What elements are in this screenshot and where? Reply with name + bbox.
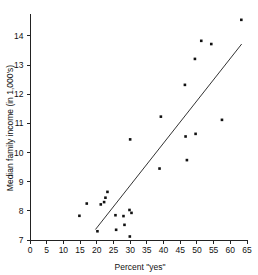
- x-axis-ticks: 05101520253035404550556065: [28, 240, 252, 255]
- data-point: [103, 201, 106, 204]
- x-tick-label: 0: [28, 245, 33, 255]
- y-axis-ticks: 7891011121314: [14, 31, 30, 245]
- x-tick-label: 20: [92, 245, 102, 255]
- data-point: [128, 209, 131, 212]
- data-point: [114, 214, 117, 217]
- data-point: [221, 119, 224, 122]
- y-axis-title: Median family income (in 1,000's): [5, 65, 15, 192]
- y-tick-label: 8: [19, 206, 24, 216]
- data-point: [184, 135, 187, 138]
- data-point: [194, 133, 197, 136]
- y-axis: 7891011121314: [14, 14, 30, 245]
- x-tick-label: 5: [44, 245, 49, 255]
- data-point: [96, 230, 99, 233]
- data-point: [85, 202, 88, 205]
- data-point: [122, 215, 125, 218]
- x-tick-label: 35: [142, 245, 152, 255]
- data-point: [129, 138, 132, 141]
- x-tick-label: 65: [242, 245, 252, 255]
- data-point: [210, 43, 213, 46]
- y-tick-label: 11: [15, 118, 24, 128]
- y-tick-label: 14: [14, 31, 24, 41]
- x-tick-label: 30: [125, 245, 135, 255]
- x-tick-label: 10: [59, 245, 69, 255]
- y-tick-label: 9: [19, 177, 24, 187]
- y-tick-label: 13: [14, 60, 24, 70]
- y-tick-label: 10: [14, 148, 24, 158]
- data-point: [106, 191, 109, 194]
- plot-canvas: 7891011121314 05101520253035404550556065…: [0, 0, 258, 275]
- data-point: [123, 224, 126, 227]
- x-tick-label: 45: [175, 245, 185, 255]
- data-point: [240, 19, 243, 22]
- data-point-group: [78, 19, 243, 238]
- x-tick-label: 25: [109, 245, 119, 255]
- x-tick-label: 40: [159, 245, 169, 255]
- x-tick-label: 50: [192, 245, 202, 255]
- data-point: [158, 167, 161, 170]
- x-axis-title: Percent "yes": [115, 262, 166, 272]
- data-point: [115, 228, 118, 231]
- data-point: [186, 159, 189, 162]
- x-tick-label: 55: [209, 245, 219, 255]
- y-tick-label: 12: [14, 89, 24, 99]
- data-point: [78, 214, 81, 217]
- x-axis: 05101520253035404550556065: [28, 240, 252, 255]
- regression-line: [95, 44, 241, 229]
- data-point: [104, 196, 107, 199]
- x-tick-label: 15: [75, 245, 85, 255]
- data-point: [99, 203, 102, 206]
- data-point: [160, 115, 163, 118]
- data-point: [200, 40, 203, 43]
- y-tick-label: 7: [19, 235, 24, 245]
- data-point: [129, 235, 132, 238]
- scatter-plot-figure: 7891011121314 05101520253035404550556065…: [0, 0, 258, 275]
- data-point: [194, 58, 197, 61]
- data-point: [130, 212, 133, 215]
- data-point: [184, 84, 187, 87]
- x-tick-label: 60: [226, 245, 236, 255]
